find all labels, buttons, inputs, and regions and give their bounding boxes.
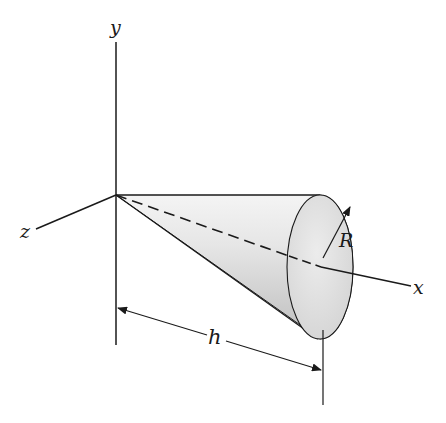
height-label: h — [208, 325, 222, 349]
cone-diagram: y z x R h — [0, 0, 446, 423]
z-axis-label: z — [19, 220, 31, 242]
x-axis-label: x — [413, 276, 424, 298]
z-axis — [36, 195, 116, 229]
h-dimension-right — [226, 341, 321, 370]
h-dimension-left — [118, 308, 207, 335]
y-axis-label: y — [109, 16, 121, 38]
radius-label: R — [338, 229, 353, 251]
